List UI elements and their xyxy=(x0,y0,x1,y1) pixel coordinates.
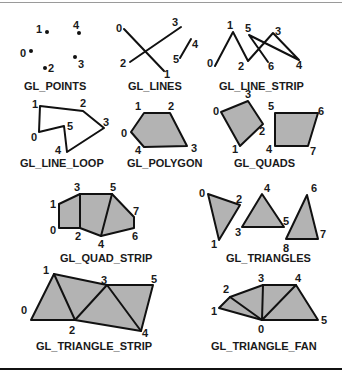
vertex-label: 5 xyxy=(110,181,116,193)
gl-triangle-strip-figure: 0 1 2 3 4 5 GL_TRIANGLE_STRIP xyxy=(21,264,157,352)
vertex-label: 0 xyxy=(199,187,205,199)
gl-polygon-caption: GL_POLYGON xyxy=(127,157,202,169)
vertex-label: 1 xyxy=(135,100,141,112)
vertex-label: 2 xyxy=(168,100,174,112)
vertex-label: 5 xyxy=(173,53,179,65)
vertex-label: 4 xyxy=(296,59,303,71)
gl-quad-strip-caption: GL_QUAD_STRIP xyxy=(60,252,152,264)
vertex-label: 0 xyxy=(20,47,26,59)
vertex-label: 5 xyxy=(283,215,289,227)
opengl-primitives-diagram: 0 1 2 3 4 GL_POINTS 0 1 2 3 4 5 GL_LINES… xyxy=(0,0,342,376)
vertex-label: 4 xyxy=(266,143,273,155)
gl-line-strip-caption: GL_LINE_STRIP xyxy=(219,80,304,92)
vertex-label: 3 xyxy=(258,272,264,284)
vertex-label: 4 xyxy=(295,272,302,284)
vertex-label: 3 xyxy=(172,16,178,28)
vertex-label: 1 xyxy=(50,198,56,210)
vertex-label: 0 xyxy=(121,127,127,139)
gl-quad-strip-figure: 0 1 2 3 4 5 6 7 GL_QUAD_STRIP xyxy=(50,181,152,264)
vertex-label: 1 xyxy=(43,264,49,276)
vertex-label: 3 xyxy=(101,274,107,286)
vertex-label: 1 xyxy=(211,238,217,250)
vertex-label: 6 xyxy=(268,60,274,72)
vertex-label: 2 xyxy=(236,193,242,205)
vertex-label: 3 xyxy=(191,142,197,154)
vertex-label: 1 xyxy=(232,143,238,155)
vertex-label: 4 xyxy=(73,19,80,31)
gl-triangle-fan-caption: GL_TRIANGLE_FAN xyxy=(211,340,317,352)
vertex-label: 1 xyxy=(32,98,38,110)
vertex-label: 3 xyxy=(245,88,251,100)
vertex-label: 6 xyxy=(318,105,324,117)
vertex-label: 5 xyxy=(67,120,73,132)
vertex-label: 6 xyxy=(132,230,138,242)
vertex-label: 2 xyxy=(75,230,81,242)
vertex-label: 7 xyxy=(310,145,316,157)
vertex-label: 3 xyxy=(78,58,84,70)
vertex-label: 0 xyxy=(21,304,27,316)
vertex-label: 0 xyxy=(207,57,213,69)
gl-line-loop-caption: GL_LINE_LOOP xyxy=(20,157,104,169)
gl-points-figure: 0 1 2 3 4 GL_POINTS xyxy=(20,19,86,92)
gl-line-loop-figure: 0 1 2 3 4 5 GL_LINE_LOOP xyxy=(20,97,109,169)
vertex-label: 4 xyxy=(264,182,271,194)
vertex-label: 1 xyxy=(227,19,233,31)
vertex-label: 1 xyxy=(211,305,217,317)
vertex-label: 3 xyxy=(235,226,241,238)
vertex-label: 0 xyxy=(213,105,219,117)
vertex-label: 5 xyxy=(151,273,157,285)
gl-line-strip-figure: 0 1 2 3 4 5 6 GL_LINE_STRIP xyxy=(207,19,304,92)
vertex-label: 0 xyxy=(50,224,56,236)
vertex-label: 3 xyxy=(103,116,109,128)
vertex-label: 2 xyxy=(223,283,229,295)
gl-polygon-figure: 0 1 2 3 4 GL_POLYGON xyxy=(121,100,202,169)
vertex-label: 3 xyxy=(74,181,80,193)
gl-quads-caption: GL_QUADS xyxy=(234,157,295,169)
vertex-label: 4 xyxy=(142,327,149,339)
gl-triangles-caption: GL_TRIANGLES xyxy=(226,252,311,264)
vertex-label: 5 xyxy=(245,22,251,34)
vertex-label: 4 xyxy=(98,238,105,250)
vertex-label: 2 xyxy=(238,60,244,72)
vertex-label: 7 xyxy=(133,205,139,217)
vertex-label: 2 xyxy=(80,97,86,109)
gl-quads-figure: 0 1 2 3 4 5 6 7 GL_QUADS xyxy=(213,88,324,169)
vertex-label: 0 xyxy=(258,323,264,335)
vertex-label: 6 xyxy=(311,182,317,194)
vertex-label: 5 xyxy=(321,314,327,326)
vertex-label: 2 xyxy=(120,57,126,69)
vertex-label: 0 xyxy=(31,131,37,143)
vertex-label: 1 xyxy=(36,23,42,35)
vertex-label: 2 xyxy=(48,62,54,74)
vertex-label: 4 xyxy=(135,144,142,156)
gl-points-caption: GL_POINTS xyxy=(24,80,86,92)
vertex-label: 4 xyxy=(192,38,199,50)
vertex-label: 1 xyxy=(164,68,170,80)
vertex-label: 4 xyxy=(55,144,62,156)
vertex-label: 0 xyxy=(116,22,122,34)
vertex-label: 2 xyxy=(69,324,75,336)
gl-lines-figure: 0 1 2 3 4 5 GL_LINES xyxy=(116,16,199,92)
gl-triangles-figure: 0 1 2 3 4 5 6 7 8 GL_TRIANGLES xyxy=(199,182,326,264)
gl-triangle-fan-figure: 0 1 2 3 4 5 GL_TRIANGLE_FAN xyxy=(211,272,327,352)
vertex-label: 5 xyxy=(268,100,274,112)
gl-lines-caption: GL_LINES xyxy=(128,80,182,92)
vertex-label: 7 xyxy=(320,228,326,240)
vertex-label: 3 xyxy=(275,25,281,37)
gl-triangle-strip-caption: GL_TRIANGLE_STRIP xyxy=(36,340,152,352)
vertex-label: 2 xyxy=(259,125,265,137)
